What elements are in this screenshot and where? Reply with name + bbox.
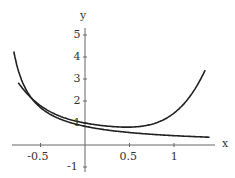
chart: y x -0.50.5154321-1 <box>0 0 235 178</box>
x-tick-label: -0.5 <box>27 151 48 162</box>
y-tick-label: 4 <box>74 51 81 62</box>
y-tick-label: -1 <box>67 161 78 172</box>
x-tick-label: 0.5 <box>120 151 138 162</box>
y-axis-label: y <box>80 10 86 21</box>
y-tick-label: 5 <box>74 29 81 40</box>
y-tick-label: 3 <box>74 73 81 84</box>
decaying-curve <box>14 52 210 138</box>
u-shaped-curve <box>18 70 205 127</box>
y-tick-label: 2 <box>74 95 81 106</box>
y-tick-label: 1 <box>74 117 81 128</box>
x-tick-label: 1 <box>171 151 178 162</box>
x-axis-label: x <box>222 138 228 149</box>
